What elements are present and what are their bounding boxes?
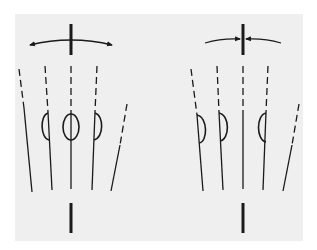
- left-line-4-dashed: [95, 66, 97, 112]
- left-line-4-solid: [92, 112, 95, 190]
- right-line-2-solid: [219, 112, 223, 190]
- right-inward-arrow-right: [246, 39, 281, 43]
- left-line-5-solid: [111, 145, 120, 191]
- diagram-canvas: [0, 0, 317, 250]
- right-line-5-solid: [283, 145, 292, 191]
- left-line-1-solid: [24, 108, 32, 192]
- left-line-2-dashed: [45, 66, 48, 112]
- right-line-4-solid: [263, 112, 266, 190]
- left-diagram: [19, 24, 127, 233]
- left-line-2-solid: [48, 112, 52, 190]
- right-line-5-dashed: [292, 104, 299, 145]
- left-outward-arrow-left: [30, 40, 71, 45]
- right-line-1-solid: [197, 115, 203, 191]
- left-line-5-dashed: [120, 104, 127, 145]
- right-line-2-dashed: [217, 66, 219, 112]
- right-inward-arrow-left: [205, 39, 240, 43]
- right-line-4-dashed: [266, 66, 268, 112]
- right-line-1-dashed: [191, 69, 197, 115]
- right-diagram: [191, 24, 299, 233]
- left-outward-arrow-right: [71, 40, 112, 45]
- left-line-1-dashed: [19, 69, 24, 108]
